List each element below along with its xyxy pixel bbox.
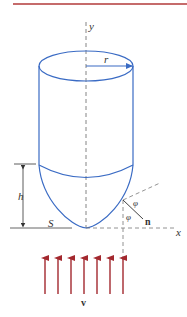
y-axis-label: y — [88, 20, 94, 32]
surface-label: S — [48, 217, 54, 229]
angle-label-1: φ — [133, 198, 138, 208]
diagram: y r h x S φ φ n v — [0, 0, 187, 317]
x-axis-label: x — [175, 226, 181, 238]
angle-label-2: φ — [126, 212, 131, 222]
cylinder-body — [39, 51, 133, 228]
flow-arrows — [45, 258, 123, 294]
height-label: h — [18, 190, 24, 202]
radius-label: r — [104, 53, 109, 65]
normal-label: n — [145, 216, 151, 227]
velocity-label: v — [81, 297, 86, 308]
